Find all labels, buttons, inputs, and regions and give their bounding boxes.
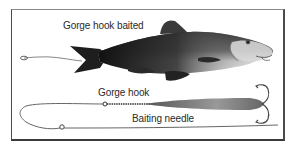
label-gorge-hook: Gorge hook [98,87,149,98]
label-baiting-needle: Baiting needle [132,113,194,124]
baiting-needle [60,125,278,129]
gorge-hook-illustration [0,0,294,147]
label-gorge-hook-baited: Gorge hook baited [63,20,144,31]
baited-line [21,56,83,61]
